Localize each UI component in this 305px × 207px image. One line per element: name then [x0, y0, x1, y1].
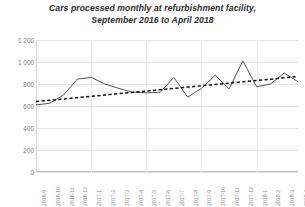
- x-axis-tick-label: 2018-3: [289, 172, 297, 206]
- x-axis-tick-label: 2016-12: [82, 172, 90, 206]
- chart-title-line-2: September 2016 to April 2018: [0, 14, 305, 26]
- y-axis-tick-label: 200: [2, 147, 34, 154]
- x-axis-tick-label: 2017-10: [220, 172, 228, 206]
- y-axis-tick-label: 1 000: [2, 59, 34, 66]
- y-axis-tick-label: 600: [2, 103, 34, 110]
- x-axis-tick-label: 2018-2: [275, 172, 283, 206]
- x-axis-tick-label: 2017-7: [179, 172, 187, 206]
- chart-title: Cars processed monthly at refurbishment …: [0, 2, 305, 26]
- y-axis: 02004006008001 0001 200: [0, 40, 34, 172]
- x-axis-tick-label: 2017-9: [206, 172, 214, 206]
- x-axis-tick-label: 2017-1: [96, 172, 104, 206]
- y-axis-tick-label: 400: [2, 125, 34, 132]
- chart-title-line-1: Cars processed monthly at refurbishment …: [0, 2, 305, 14]
- y-axis-tick-label: 0: [2, 169, 34, 176]
- x-axis-tick-label: 2016-11: [69, 172, 77, 206]
- x-axis-tick-label: 2017-4: [138, 172, 146, 206]
- x-axis-tick-label: 2017-11: [234, 172, 242, 206]
- x-axis-tick-label: 2017-8: [193, 172, 201, 206]
- y-axis-tick-label: 1 200: [2, 37, 34, 44]
- x-axis-tick-label: 2017-3: [124, 172, 132, 206]
- x-axis: 2016-92016-102016-112016-122017-12017-22…: [36, 173, 298, 207]
- x-axis-tick-label: 2016-10: [55, 172, 63, 206]
- trend-line: [36, 77, 298, 102]
- x-axis-tick-label: 2018-4: [303, 172, 305, 206]
- x-axis-tick-label: 2017-12: [248, 172, 256, 206]
- x-axis-tick-label: 2017-2: [110, 172, 118, 206]
- plot-area: [36, 40, 298, 172]
- x-axis-tick-label: 2017-6: [165, 172, 173, 206]
- x-axis-tick-label: 2016-9: [41, 172, 49, 206]
- x-axis-tick-label: 2018-1: [262, 172, 270, 206]
- line-chart: Cars processed monthly at refurbishment …: [0, 0, 305, 207]
- series-lines: [36, 40, 298, 172]
- x-axis-tick-label: 2017-5: [151, 172, 159, 206]
- y-axis-tick-label: 800: [2, 81, 34, 88]
